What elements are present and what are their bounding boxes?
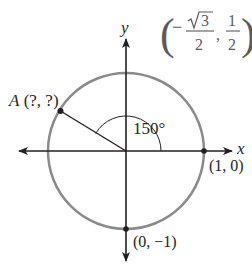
y-intercept-label: (0, −1) <box>133 233 177 251</box>
x-intercept-label: (1, 0) <box>209 157 244 175</box>
unit-circle-diagram: y x 150° A (?, ?) (1, 0) (0, −1) ( − 3 2… <box>0 0 252 265</box>
point-a-name: A <box>8 91 20 110</box>
point-a-label: A (?, ?) <box>8 91 59 110</box>
x-axis-label: x <box>236 139 245 158</box>
point-a-coords: (?, ?) <box>24 91 59 110</box>
close-paren: ) <box>241 10 252 59</box>
comma: , <box>216 26 220 43</box>
sqrt-numerator: 3 <box>201 12 209 29</box>
y-axis-label: y <box>119 18 129 37</box>
minus-sign: − <box>172 17 182 37</box>
denominator-2: 2 <box>228 36 236 53</box>
point-1-0 <box>201 148 207 154</box>
angle-label: 150° <box>133 119 165 138</box>
numerator-2: 1 <box>228 12 236 29</box>
denominator-1: 2 <box>195 36 203 53</box>
point-0-neg1 <box>123 226 129 232</box>
reference-point-label: ( − 3 2 , 1 2 ) <box>160 10 252 59</box>
